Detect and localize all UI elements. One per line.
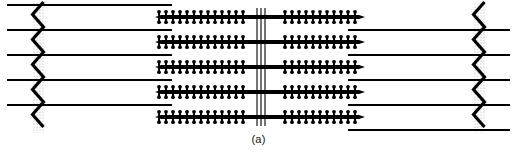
myosin-crossbridge-head [353, 95, 357, 99]
myosin-crossbridge-head [220, 45, 224, 49]
myosin-crossbridge-head [185, 60, 189, 64]
myosin-crossbridge-head [185, 45, 189, 49]
myosin-crossbridge-head [164, 35, 168, 39]
myosin-crossbridge-head [346, 120, 350, 124]
myosin-crossbridge-head [339, 85, 343, 89]
myosin-crossbridge-head [220, 85, 224, 89]
myosin-crossbridge-head [213, 20, 217, 24]
myosin-crossbridge-head [304, 60, 308, 64]
myosin-crossbridge-head [311, 20, 315, 24]
myosin-crossbridge-head [185, 70, 189, 74]
myosin-crossbridge-head [304, 45, 308, 49]
myosin-crossbridge-head [318, 60, 322, 64]
myosin-crossbridge-head [297, 85, 301, 89]
myosin-crossbridge-head [325, 120, 329, 124]
myosin-crossbridge-head [241, 10, 245, 14]
myosin-crossbridge-head [297, 95, 301, 99]
myosin-crossbridge-head [304, 70, 308, 74]
myosin-crossbridge-head [283, 10, 287, 14]
myosin-crossbridge-head [206, 10, 210, 14]
myosin-crossbridge-head [318, 35, 322, 39]
myosin-crossbridge-head [290, 60, 294, 64]
myosin-crossbridge-head [311, 10, 315, 14]
myosin-crossbridge-head [206, 95, 210, 99]
myosin-crossbridge-head [206, 20, 210, 24]
myosin-crossbridge-head [178, 35, 182, 39]
myosin-crossbridge-head [304, 120, 308, 124]
myosin-crossbridge-head [325, 10, 329, 14]
myosin-crossbridge-head [213, 70, 217, 74]
myosin-crossbridge-head [192, 45, 196, 49]
myosin-crossbridge-head [304, 20, 308, 24]
myosin-crossbridge-head [227, 20, 231, 24]
myosin-crossbridge-head [199, 110, 203, 114]
myosin-crossbridge-head [227, 10, 231, 14]
myosin-crossbridge-head [227, 110, 231, 114]
myosin-crossbridge-head [318, 20, 322, 24]
myosin-crossbridge-head [311, 95, 315, 99]
myosin-crossbridge-head [157, 110, 161, 114]
myosin-crossbridge-head [192, 35, 196, 39]
myosin-crossbridge-head [227, 60, 231, 64]
myosin-crossbridge-head [353, 45, 357, 49]
myosin-crossbridge-head [185, 20, 189, 24]
myosin-crossbridge-head [192, 85, 196, 89]
myosin-crossbridge-head [325, 110, 329, 114]
myosin-crossbridge-head [199, 85, 203, 89]
myosin-crossbridge-head [241, 60, 245, 64]
myosin-crossbridge-head [213, 120, 217, 124]
myosin-crossbridge-head [290, 70, 294, 74]
myosin-crossbridge-head [297, 20, 301, 24]
myosin-crossbridge-head [171, 95, 175, 99]
myosin-crossbridge-head [325, 95, 329, 99]
myosin-crossbridge-head [339, 35, 343, 39]
myosin-crossbridge-head [346, 45, 350, 49]
myosin-crossbridge-head [332, 70, 336, 74]
myosin-crossbridge-head [283, 35, 287, 39]
myosin-crossbridge-head [157, 70, 161, 74]
myosin-crossbridge-head [178, 70, 182, 74]
myosin-crossbridge-head [227, 85, 231, 89]
myosin-crossbridge-head [171, 45, 175, 49]
myosin-crossbridge-head [304, 110, 308, 114]
myosin-crossbridge-head [241, 45, 245, 49]
myosin-crossbridge-head [199, 45, 203, 49]
myosin-crossbridge-head [157, 45, 161, 49]
myosin-crossbridge-head [353, 85, 357, 89]
myosin-crossbridge-head [353, 60, 357, 64]
myosin-crossbridge-head [332, 10, 336, 14]
myosin-crossbridge-head [199, 95, 203, 99]
myosin-crossbridge-head [220, 120, 224, 124]
myosin-crossbridge-head [206, 85, 210, 89]
myosin-crossbridge-head [171, 60, 175, 64]
myosin-crossbridge-head [311, 120, 315, 124]
myosin-crossbridge-head [227, 35, 231, 39]
myosin-crossbridge-head [304, 35, 308, 39]
myosin-crossbridge-head [290, 95, 294, 99]
myosin-crossbridge-head [311, 60, 315, 64]
myosin-crossbridge-head [178, 45, 182, 49]
myosin-crossbridge-head [353, 10, 357, 14]
myosin-crossbridge-head [297, 45, 301, 49]
myosin-crossbridge-head [339, 45, 343, 49]
myosin-crossbridge-head [178, 85, 182, 89]
myosin-crossbridge-head [318, 45, 322, 49]
myosin-crossbridge-head [241, 95, 245, 99]
myosin-crossbridge-head [164, 120, 168, 124]
myosin-crossbridge-head [311, 85, 315, 89]
myosin-crossbridge-head [332, 20, 336, 24]
myosin-crossbridge-head [290, 10, 294, 14]
myosin-crossbridge-head [290, 20, 294, 24]
myosin-crossbridge-head [192, 95, 196, 99]
myosin-crossbridge-head [346, 20, 350, 24]
myosin-crossbridge-head [206, 70, 210, 74]
myosin-crossbridge-head [220, 110, 224, 114]
myosin-crossbridge-head [199, 120, 203, 124]
myosin-crossbridge-head [164, 20, 168, 24]
myosin-crossbridge-head [241, 20, 245, 24]
myosin-crossbridge-head [346, 110, 350, 114]
myosin-crossbridge-head [318, 10, 322, 14]
myosin-crossbridge-head [290, 85, 294, 89]
myosin-crossbridge-head [213, 35, 217, 39]
myosin-crossbridge-head [220, 10, 224, 14]
